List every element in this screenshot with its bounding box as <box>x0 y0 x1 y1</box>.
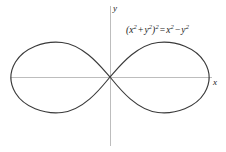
y-axis-label: y <box>113 4 117 13</box>
x-axis-label: x <box>213 78 217 87</box>
equation-annotation: (x2+y2)2=x2−y2 <box>126 25 189 35</box>
lemniscate-figure: y x (x2+y2)2=x2−y2 <box>0 0 226 152</box>
plot-canvas <box>0 0 226 152</box>
equation-rhs-exp-y: 2 <box>186 23 189 30</box>
